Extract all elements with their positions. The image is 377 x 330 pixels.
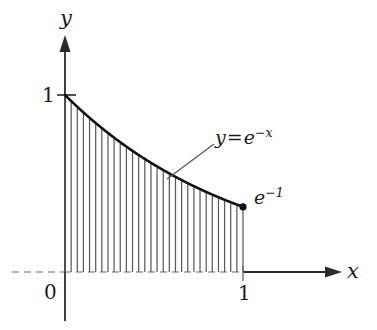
- x-tick-label-1: 1: [238, 283, 251, 303]
- y-tick-label-1: 1: [42, 85, 55, 105]
- equation-exponent: −x: [255, 125, 273, 140]
- endpoint-exponent: −1: [265, 185, 283, 200]
- equation-lhs: y: [215, 126, 226, 148]
- exponential-curve: [65, 95, 243, 207]
- curve-endpoint-marker: [239, 203, 246, 210]
- equation-leader-line: [167, 144, 214, 179]
- origin-label: 0: [44, 282, 57, 302]
- x-axis-label: x: [347, 261, 359, 282]
- endpoint-base: e: [254, 186, 265, 208]
- y-axis-arrowhead: [60, 35, 71, 52]
- equation-equals-sign: =: [226, 126, 244, 148]
- equation-base: e: [244, 126, 255, 148]
- area-hatching: [65, 96, 243, 272]
- figure-canvas: y x 1 1 0 y=e−x e−1: [0, 0, 377, 330]
- y-axis-label: y: [60, 8, 72, 29]
- curve-equation-label: y=e−x: [215, 128, 272, 147]
- x-axis-arrowhead: [325, 267, 342, 278]
- endpoint-value-label: e−1: [254, 188, 284, 207]
